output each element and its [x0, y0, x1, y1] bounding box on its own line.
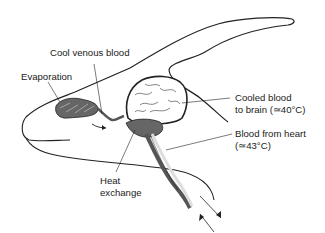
flow-arrow-out	[200, 196, 221, 218]
label-blood-from-heart-line2: (≃43°C)	[235, 140, 271, 152]
jaw-outline	[22, 117, 70, 141]
leader-heat	[116, 130, 135, 172]
label-heat-line1: Heat	[100, 175, 120, 187]
label-cooled-blood-line2: to brain (≃40°C)	[235, 104, 306, 116]
carotid-rete	[126, 119, 163, 137]
label-cool-venous-blood: Cool venous blood	[50, 47, 129, 59]
flow-arrow-in	[199, 214, 214, 232]
head-illustration	[0, 0, 325, 233]
brain	[127, 76, 187, 124]
diagram-canvas: Cool venous blood Evaporation Cooled blo…	[0, 0, 325, 233]
nasal-rete	[56, 98, 98, 118]
label-heat-line2: exchange	[100, 187, 142, 199]
label-evaporation: Evaporation	[21, 71, 72, 83]
leader-blood-heart	[166, 134, 232, 150]
leader-evaporation	[48, 82, 60, 102]
vessel-dark	[146, 134, 190, 208]
label-cooled-blood-line1: Cooled blood	[235, 92, 292, 104]
vessel-light	[152, 134, 192, 206]
label-blood-from-heart-line1: Blood from heart	[235, 128, 306, 140]
